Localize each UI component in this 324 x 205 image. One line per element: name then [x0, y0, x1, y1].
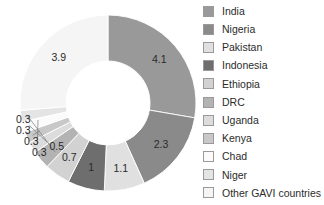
slice-value-label: 0.7 [62, 151, 77, 163]
legend-item-label: Uganda [222, 115, 259, 126]
legend-item-label: Nigeria [222, 24, 255, 35]
legend-item-label: Indonesia [222, 60, 268, 71]
legend-item[interactable]: Kenya [199, 129, 324, 147]
legend-item[interactable]: India [199, 2, 324, 20]
slice-value-label: 1.1 [113, 162, 128, 174]
legend-item[interactable]: Pakistan [199, 38, 324, 56]
slice-value-label: 4.1 [152, 53, 167, 65]
legend-item[interactable]: DRC [199, 93, 324, 111]
legend-color-swatch [203, 151, 214, 162]
legend-item-label: Niger [222, 170, 247, 181]
legend-item[interactable]: Indonesia [199, 57, 324, 75]
legend-item[interactable]: Other GAVI countries [199, 184, 324, 202]
legend-item-label: India [222, 6, 245, 17]
legend-item-label: Pakistan [222, 42, 262, 53]
legend-color-swatch [203, 169, 214, 180]
legend-item-label: Ethiopia [222, 79, 260, 90]
donut-svg: 4.12.31.110.70.50.30.30.30.33.9 [0, 0, 200, 205]
legend-color-swatch [203, 78, 214, 89]
legend-color-swatch [203, 133, 214, 144]
legend-color-swatch [203, 60, 214, 71]
legend-color-swatch [203, 42, 214, 53]
legend-item-label: Other GAVI countries [222, 188, 321, 199]
chart-legend: IndiaNigeriaPakistanIndonesiaEthiopiaDRC… [199, 2, 324, 203]
legend-item[interactable]: Nigeria [199, 20, 324, 38]
legend-color-swatch [203, 187, 214, 198]
legend-color-swatch [203, 115, 214, 126]
legend-item-label: DRC [222, 97, 245, 108]
legend-item[interactable]: Uganda [199, 111, 324, 129]
donut-plot-area: 4.12.31.110.70.50.30.30.30.33.9 [0, 0, 200, 205]
legend-color-swatch [203, 24, 214, 35]
slice-value-label: 3.9 [51, 51, 66, 63]
slice-value-label: 2.3 [154, 138, 169, 150]
slice-value-label-callout: 0.3 [32, 146, 47, 158]
legend-color-swatch [203, 97, 214, 108]
slice-value-label: 0.5 [49, 140, 64, 152]
legend-item-label: Kenya [222, 133, 252, 144]
donut-chart-figure: 4.12.31.110.70.50.30.30.30.33.9 IndiaNig… [0, 0, 324, 205]
donut-slices-group [20, 15, 196, 191]
legend-item[interactable]: Chad [199, 148, 324, 166]
legend-item[interactable]: Ethiopia [199, 75, 324, 93]
legend-item-label: Chad [222, 151, 247, 162]
legend-color-swatch [203, 6, 214, 17]
donut-slice[interactable] [108, 15, 196, 118]
legend-item[interactable]: Niger [199, 166, 324, 184]
slice-value-label: 1 [88, 161, 94, 173]
